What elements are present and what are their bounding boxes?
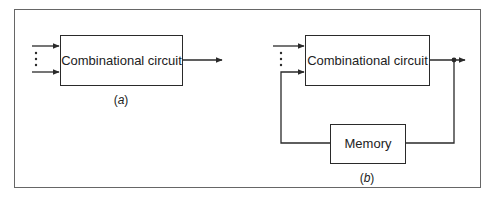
combinational-circuit-label-b: Combinational circuit: [307, 53, 428, 68]
diagram-canvas: Combinational circuit (a) Combinational …: [0, 0, 492, 198]
input-ellipsis-icon: [35, 52, 37, 66]
memory-label: Memory: [345, 136, 392, 151]
caption-a: (a): [114, 93, 129, 107]
panel-b: Combinational circuit Memory (b): [273, 36, 465, 186]
panel-a: Combinational circuit (a): [32, 36, 222, 108]
input-ellipsis-icon-b: [280, 52, 282, 66]
combinational-circuit-label-a: Combinational circuit: [61, 53, 182, 68]
caption-b: (b): [360, 171, 375, 185]
